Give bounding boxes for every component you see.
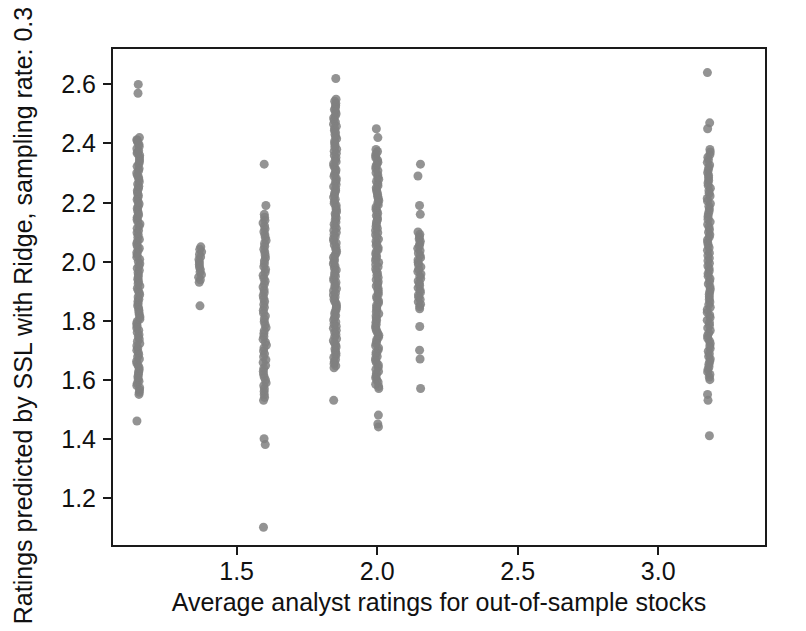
scatter-point: [259, 523, 268, 532]
scatter-point: [132, 417, 141, 426]
scatter-point: [260, 210, 269, 219]
scatter-point: [415, 201, 424, 210]
scatter-point: [416, 160, 425, 169]
scatter-point: [260, 160, 269, 169]
x-tick-mark: [236, 547, 238, 555]
scatter-point: [414, 228, 423, 237]
scatter-point: [416, 210, 425, 219]
y-tick-mark: [103, 142, 111, 144]
x-tick-mark: [517, 547, 519, 555]
y-tick-label: 1.6: [30, 367, 96, 392]
scatter-point: [331, 74, 340, 83]
scatter-point: [329, 396, 338, 405]
scatter-point: [705, 431, 714, 440]
scatter-point: [415, 346, 424, 355]
y-tick-label: 1.4: [30, 426, 96, 451]
scatter-point: [261, 440, 270, 449]
y-tick-mark: [103, 379, 111, 381]
scatter-point: [374, 422, 383, 431]
y-tick-mark: [103, 320, 111, 322]
scatter-point: [705, 145, 714, 154]
scatter-point: [332, 95, 341, 104]
y-tick-label: 1.2: [30, 485, 96, 510]
plot-frame: [111, 47, 767, 547]
x-tick-mark: [376, 547, 378, 555]
x-tick-label: 2.5: [500, 559, 535, 584]
scatter-point: [196, 242, 205, 251]
scatter-point: [416, 384, 425, 393]
scatter-point: [134, 89, 143, 98]
y-tick-label: 2.4: [30, 131, 96, 156]
y-tick-mark: [103, 438, 111, 440]
scatter-point: [134, 80, 143, 89]
y-tick-mark: [103, 202, 111, 204]
scatter-points-layer: [113, 49, 765, 545]
y-tick-label: 1.8: [30, 308, 96, 333]
x-tick-mark: [657, 547, 659, 555]
scatter-point: [703, 124, 712, 133]
plot-area: [113, 49, 765, 545]
scatter-point: [374, 411, 383, 420]
scatter-point: [703, 68, 712, 77]
y-tick-label: 2.6: [30, 72, 96, 97]
scatter-point: [133, 136, 142, 145]
scatter-point: [261, 201, 270, 210]
scatter-point: [704, 396, 713, 405]
scatter-point: [195, 301, 204, 310]
x-tick-label: 1.5: [219, 559, 254, 584]
scatter-point: [373, 133, 382, 142]
x-tick-label: 2.0: [360, 559, 395, 584]
y-tick-mark: [103, 261, 111, 263]
x-axis-title: Average analyst ratings for out-of-sampl…: [111, 588, 767, 617]
y-tick-label: 2.0: [30, 249, 96, 274]
y-tick-mark: [103, 497, 111, 499]
y-tick-label: 2.2: [30, 190, 96, 215]
x-tick-label: 3.0: [641, 559, 676, 584]
scatter-point: [372, 124, 381, 133]
scatter-point: [415, 322, 424, 331]
scatter-point: [371, 145, 380, 154]
scatter-point: [416, 355, 425, 364]
y-tick-mark: [103, 83, 111, 85]
scatter-point: [133, 148, 142, 157]
scatter-point: [413, 171, 422, 180]
scatter-plot-figure: Ratings predicted by SSL with Ridge, sam…: [0, 0, 806, 631]
